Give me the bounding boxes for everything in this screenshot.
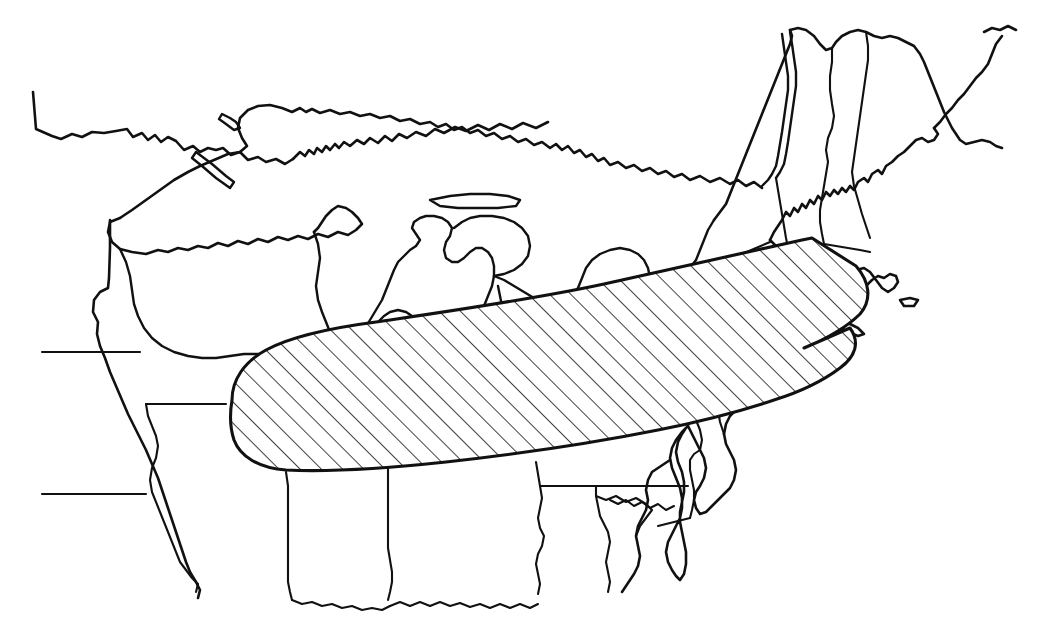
map-figure [0, 0, 1040, 624]
map-canvas [0, 0, 1040, 624]
